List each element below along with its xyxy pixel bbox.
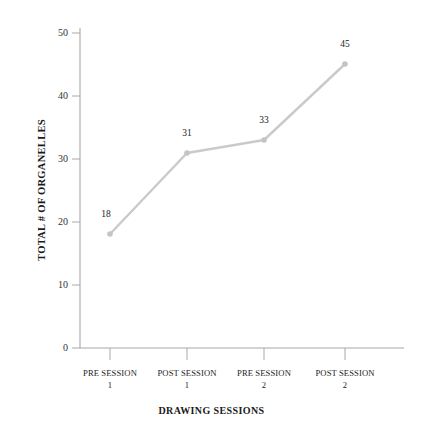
- x-tick-label-line2: 2: [303, 380, 387, 392]
- line-chart: 50 40 30 20 10 0 18 31 33 45 PRE SESSION…: [0, 0, 423, 432]
- x-tick-label-line2: 1: [68, 380, 152, 392]
- x-tick-label-pre-session-2: PRE SESSION 2: [222, 368, 306, 391]
- x-axis-ticks: [110, 348, 345, 360]
- y-axis-title: TOTAL # OF ORGANELLES: [34, 60, 50, 320]
- y-tick-label-50: 50: [42, 27, 68, 38]
- x-tick-label-post-session-2: POST SESSION 2: [303, 368, 387, 391]
- x-tick-label-line1: PRE SESSION: [68, 368, 152, 380]
- x-tick-label-line1: POST SESSION: [303, 368, 387, 380]
- data-point-3: [342, 61, 348, 67]
- data-point-label-1: 31: [172, 128, 202, 139]
- x-tick-label-line1: POST SESSION: [145, 368, 229, 380]
- y-axis-ticks: [72, 33, 80, 285]
- x-tick-label-line1: PRE SESSION: [222, 368, 306, 380]
- x-axis-title: DRAWING SESSIONS: [0, 405, 423, 416]
- data-line-series-1: [110, 64, 345, 234]
- x-tick-label-line2: 2: [222, 380, 306, 392]
- data-point-label-3: 45: [330, 39, 360, 50]
- x-tick-label-pre-session-1: PRE SESSION 1: [68, 368, 152, 391]
- data-point-1: [184, 150, 190, 156]
- x-tick-label-post-session-1: POST SESSION 1: [145, 368, 229, 391]
- data-point-2: [261, 137, 267, 143]
- data-point-markers: [107, 61, 348, 237]
- data-point-label-2: 33: [249, 115, 279, 126]
- x-tick-label-line2: 1: [145, 380, 229, 392]
- data-point-0: [107, 231, 113, 237]
- data-point-label-0: 18: [91, 209, 121, 220]
- y-tick-label-0: 0: [42, 342, 68, 353]
